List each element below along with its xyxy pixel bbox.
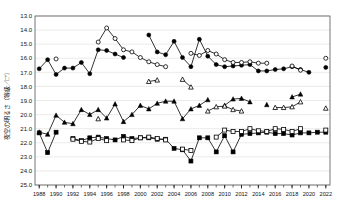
data-point-filled-circle xyxy=(46,58,50,62)
y-tick-label: 20.0 xyxy=(20,112,32,118)
x-tick-label: 2018 xyxy=(286,191,298,197)
data-point-open-square xyxy=(147,135,151,139)
data-point-open-circle xyxy=(206,49,210,53)
data-point-open-circle xyxy=(265,61,269,65)
data-point-filled-circle xyxy=(147,33,151,37)
data-point-open-triangle xyxy=(180,77,185,81)
y-tick-label: 22.0 xyxy=(20,140,32,146)
data-point-filled-circle xyxy=(273,68,277,72)
data-point-filled-triangle xyxy=(298,92,303,96)
x-tick-label: 2004 xyxy=(168,191,180,197)
y-tick-label: 23.0 xyxy=(20,154,32,160)
data-point-filled-square xyxy=(315,130,319,134)
data-point-open-square xyxy=(248,127,252,131)
data-point-filled-circle xyxy=(88,72,92,76)
data-point-filled-triangle xyxy=(146,107,151,111)
x-tick-label: 1988 xyxy=(33,191,45,197)
data-point-open-circle xyxy=(197,53,201,57)
data-point-open-square xyxy=(299,127,303,131)
data-point-open-square xyxy=(265,129,269,133)
data-point-filled-square xyxy=(307,131,311,135)
data-point-filled-square xyxy=(206,136,210,140)
y-tick-label: 24.0 xyxy=(20,168,32,174)
data-point-filled-circle xyxy=(63,66,67,70)
y-tick-label: 14.0 xyxy=(20,27,32,33)
series-filled-circle xyxy=(37,33,328,76)
data-point-open-square xyxy=(290,129,294,133)
data-point-open-triangle xyxy=(155,78,160,82)
data-point-filled-square xyxy=(172,146,176,150)
data-point-open-circle xyxy=(130,50,134,54)
data-point-filled-circle xyxy=(122,56,126,60)
y-tick-label: 18.0 xyxy=(20,84,32,90)
data-point-open-square xyxy=(88,140,92,144)
data-point-open-circle xyxy=(231,60,235,64)
data-point-open-square xyxy=(240,129,244,133)
data-point-open-circle xyxy=(54,57,58,61)
data-point-open-square xyxy=(181,147,185,151)
data-point-filled-circle xyxy=(105,49,109,53)
data-point-open-triangle xyxy=(96,116,101,120)
data-point-filled-circle xyxy=(282,67,286,71)
series-filled-square xyxy=(37,130,328,163)
data-point-filled-triangle xyxy=(113,102,118,106)
data-point-filled-triangle xyxy=(138,103,143,107)
data-point-filled-circle xyxy=(223,65,227,69)
data-point-open-circle xyxy=(290,64,294,68)
data-point-filled-triangle xyxy=(205,97,210,101)
data-point-open-triangle xyxy=(205,109,210,113)
data-point-filled-square xyxy=(46,151,50,155)
x-tick-label: 2000 xyxy=(134,191,146,197)
data-point-open-circle xyxy=(96,40,100,44)
data-point-filled-square xyxy=(299,131,303,135)
x-tick-label: 2008 xyxy=(202,191,214,197)
data-point-filled-circle xyxy=(324,65,328,69)
data-point-open-square xyxy=(231,129,235,133)
data-point-open-circle xyxy=(138,56,142,60)
data-point-open-square xyxy=(71,137,75,141)
data-point-filled-circle xyxy=(37,67,41,71)
data-point-open-square xyxy=(96,137,100,141)
data-point-filled-circle xyxy=(214,63,218,67)
x-tick-label: 2022 xyxy=(320,191,332,197)
x-tick-label: 1992 xyxy=(67,191,79,197)
data-point-open-circle xyxy=(214,52,218,56)
data-point-filled-circle xyxy=(181,56,185,60)
data-point-open-circle xyxy=(164,65,168,69)
x-tick-label: 2014 xyxy=(252,191,264,197)
data-point-filled-circle xyxy=(265,69,269,73)
data-point-open-square xyxy=(79,139,83,143)
data-point-open-circle xyxy=(240,60,244,64)
data-point-open-square xyxy=(155,137,159,141)
data-point-open-square xyxy=(189,148,193,152)
data-point-filled-square xyxy=(231,150,235,154)
data-point-filled-circle xyxy=(307,70,311,74)
x-tick-label: 2020 xyxy=(303,191,315,197)
data-point-open-square xyxy=(164,138,168,142)
series-line xyxy=(191,51,267,64)
data-point-filled-square xyxy=(214,150,218,154)
data-point-open-circle xyxy=(223,58,227,62)
data-point-filled-square xyxy=(37,131,41,135)
data-point-filled-square xyxy=(88,136,92,140)
data-point-open-circle xyxy=(155,63,159,67)
data-point-open-circle xyxy=(147,60,151,64)
data-point-filled-square xyxy=(189,159,193,163)
x-tick-label: 2012 xyxy=(235,191,247,197)
data-point-filled-circle xyxy=(79,60,83,64)
data-point-filled-circle xyxy=(164,53,168,57)
data-point-filled-circle xyxy=(54,72,58,76)
data-point-filled-circle xyxy=(189,65,193,69)
data-point-open-triangle xyxy=(231,107,236,111)
data-point-filled-square xyxy=(113,138,117,142)
data-point-open-square xyxy=(105,139,109,143)
data-point-open-square xyxy=(273,127,277,131)
data-point-filled-circle xyxy=(256,69,260,73)
y-tick-label: 25.0 xyxy=(20,182,32,188)
series-line xyxy=(225,98,250,105)
series-line xyxy=(275,102,300,108)
x-tick-label: 1994 xyxy=(84,191,96,197)
data-point-open-circle xyxy=(113,37,117,41)
plot-area: 13.014.015.016.017.018.019.020.021.022.0… xyxy=(0,0,337,209)
data-point-filled-circle xyxy=(96,48,100,52)
